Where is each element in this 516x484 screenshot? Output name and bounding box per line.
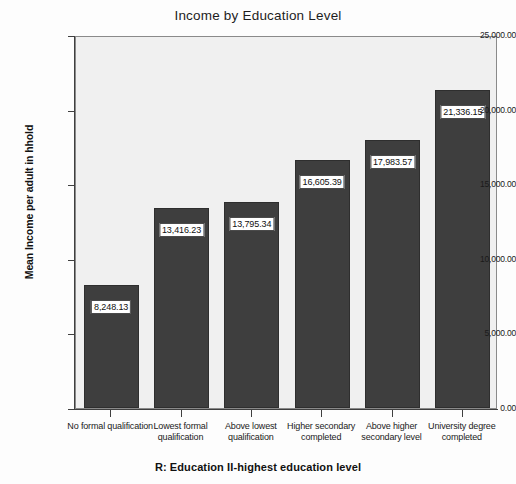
x-axis-tick — [462, 410, 463, 417]
y-axis-tick-label: 20,000.00 — [452, 106, 516, 115]
plot-inner: 8,248.1313,416.2313,795.3416,605.3917,98… — [76, 37, 496, 408]
x-axis-tick — [110, 410, 111, 417]
y-axis-tick — [68, 111, 75, 112]
bar-value-label: 13,795.34 — [229, 217, 274, 231]
x-axis-tick — [392, 410, 393, 417]
y-axis-title: Mean Income per adult in hhold — [23, 87, 35, 317]
y-axis-tick-label: 10,000.00 — [452, 255, 516, 264]
chart-title: Income by Education Level — [0, 8, 516, 23]
bar — [295, 160, 350, 408]
x-axis-tick-label: University degree completed — [419, 421, 505, 442]
bar — [365, 140, 420, 408]
y-axis-tick — [68, 260, 75, 261]
bar-value-label: 16,605.39 — [300, 175, 345, 189]
y-axis-tick — [68, 36, 75, 37]
x-axis-tick — [181, 410, 182, 417]
y-axis-tick-label: 25,000.00 — [452, 31, 516, 40]
bar-value-label: 17,983.57 — [370, 155, 415, 169]
y-axis-tick — [68, 334, 75, 335]
bar — [224, 202, 279, 408]
y-axis-tick-label: 5,000.00 — [452, 329, 516, 338]
x-axis-title: R: Education II-highest education level — [0, 461, 516, 473]
bar-value-label: 13,416.23 — [159, 223, 204, 237]
bar — [435, 90, 490, 408]
y-axis-tick — [68, 185, 75, 186]
x-axis-tick — [321, 410, 322, 417]
y-axis-tick-label: 15,000.00 — [452, 180, 516, 189]
y-axis-line — [74, 36, 75, 410]
bar — [154, 208, 209, 408]
x-axis-tick — [251, 410, 252, 417]
plot-area: 8,248.1313,416.2313,795.3416,605.3917,98… — [75, 36, 497, 409]
x-axis-line — [74, 409, 498, 410]
bar-value-label: 8,248.13 — [91, 300, 131, 314]
bar-chart: Income by Education Level 8,248.1313,416… — [0, 0, 516, 484]
